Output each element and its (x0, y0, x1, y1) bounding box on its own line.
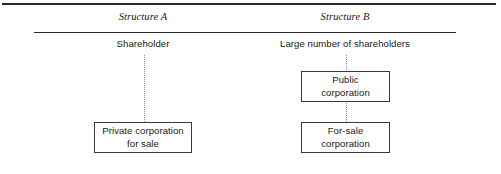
entity-box-line-1: Public (332, 74, 358, 87)
connector-line-structure-a (144, 55, 145, 122)
entity-box-line-2: corporation (321, 138, 370, 151)
entity-box-line-1: For-sale (328, 125, 364, 138)
heading-underline-rule (34, 32, 456, 33)
top-horizontal-rule (2, 3, 496, 5)
entity-box-for-sale-corporation: For-sale corporation (301, 122, 390, 153)
entity-box-line-1: Private corporation (102, 125, 183, 138)
column-heading-structure-b: Structure B (265, 11, 425, 22)
ownership-structure-diagram: Structure A Structure B Shareholder Larg… (0, 0, 501, 174)
owner-caption-structure-a: Shareholder (43, 38, 243, 49)
owner-caption-structure-b: Large number of shareholders (245, 38, 445, 49)
entity-box-public-corporation: Public corporation (301, 71, 390, 102)
entity-box-private-corporation-for-sale: Private corporation for sale (94, 122, 192, 153)
entity-box-line-2: corporation (321, 87, 370, 100)
column-heading-structure-a: Structure A (63, 11, 223, 22)
entity-box-line-2: for sale (127, 138, 159, 151)
